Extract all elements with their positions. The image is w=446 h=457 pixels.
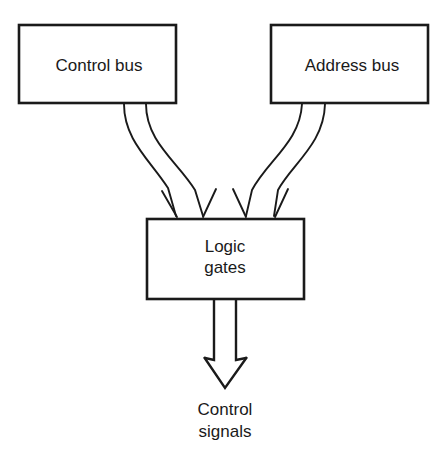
logic-gates-label-line1: Logic (205, 237, 246, 256)
output-arrow-left-side (205, 300, 214, 360)
control-signals-label-line1: Control (198, 400, 253, 419)
edge-control-bus-2-arrowhead (203, 189, 216, 217)
edge-address-bus-1 (233, 104, 302, 217)
edge-control-bus-1 (124, 104, 177, 217)
diagram-svg: Control bus Address bus Logic (0, 0, 446, 457)
node-logic-gates[interactable]: Logic gates (147, 219, 304, 299)
output-arrow (204, 300, 247, 388)
node-control-bus[interactable]: Control bus (19, 25, 176, 103)
edge-address-bus-1-line (246, 104, 302, 216)
edge-address-bus-1-arrowhead (233, 189, 246, 217)
control-bus-label: Control bus (56, 56, 143, 75)
output-arrow-tip (204, 357, 247, 388)
diagram-canvas: Control bus Address bus Logic (0, 0, 446, 457)
edge-control-bus-1-line (124, 104, 176, 216)
control-signals-label-line2: signals (199, 422, 252, 441)
logic-gates-label-line2: gates (204, 258, 246, 277)
edge-control-bus-2 (146, 104, 216, 217)
output-caption: Control signals (198, 400, 253, 441)
output-arrow-right-side (236, 300, 246, 360)
address-bus-label: Address bus (305, 56, 400, 75)
node-address-bus[interactable]: Address bus (271, 25, 428, 103)
edge-control-bus-2-line (146, 104, 203, 216)
